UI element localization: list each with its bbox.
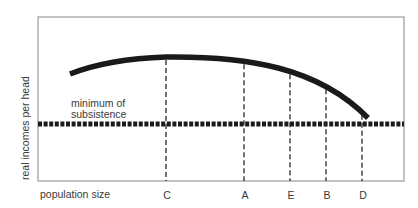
marker-label-c: C	[157, 189, 177, 201]
x-axis-label: population size	[40, 189, 110, 200]
marker-label-a: A	[235, 189, 255, 201]
y-axis-label: real incomes per head	[20, 76, 31, 180]
population-income-diagram	[0, 0, 418, 208]
subsistence-label-line2: subsistence	[71, 109, 126, 120]
marker-label-d: D	[353, 189, 373, 201]
population-marker-lines	[166, 60, 362, 181]
marker-label-e: E	[281, 189, 301, 201]
marker-label-b: B	[317, 189, 337, 201]
